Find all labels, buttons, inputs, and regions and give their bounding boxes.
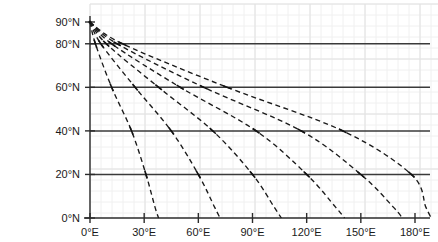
x-tick-label: 0°E: [81, 226, 99, 238]
y-tick-label: 0°N: [62, 212, 81, 224]
y-tick-label: 40°N: [55, 125, 80, 137]
x-tick-label: 150°E: [346, 226, 376, 238]
x-tick-label: 90°E: [241, 226, 265, 238]
y-tick-label: 20°N: [55, 168, 80, 180]
pole-convergence-point: [88, 20, 91, 23]
geodesic-latitude-longitude-chart: 0°N20°N40°N60°N80°N90°N 0°E30°E60°E90°E1…: [0, 0, 438, 242]
x-tick-label: 60°E: [186, 226, 210, 238]
x-tick-label: 180°E: [400, 226, 430, 238]
y-tick-label: 60°N: [55, 81, 80, 93]
x-tick-label: 30°E: [132, 226, 156, 238]
chart-container: 0°N20°N40°N60°N80°N90°N 0°E30°E60°E90°E1…: [0, 0, 438, 242]
y-tick-label: 90°N: [55, 16, 80, 28]
y-tick-label: 80°N: [55, 38, 80, 50]
chart-background: [0, 0, 438, 242]
x-tick-label: 120°E: [292, 226, 322, 238]
